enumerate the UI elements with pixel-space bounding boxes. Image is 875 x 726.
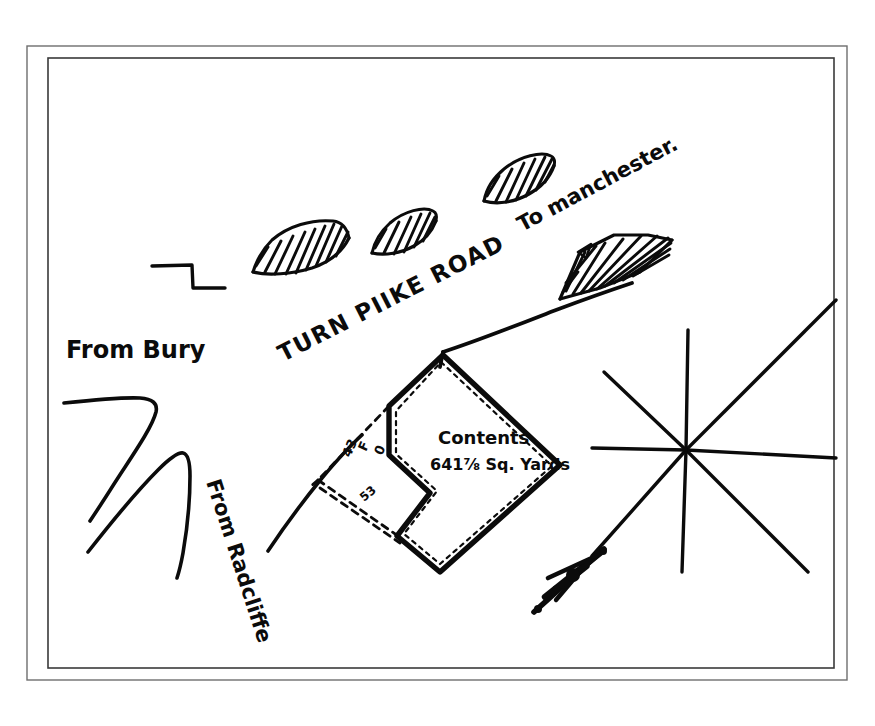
compass-ray-e bbox=[686, 450, 836, 458]
map-drawing-canvas: From Bury From Radcliffe TURN PIIKE ROAD… bbox=[0, 0, 875, 726]
hatched-block-east bbox=[484, 154, 555, 203]
hatched-block-middle bbox=[372, 209, 437, 254]
label-contents-heading: Contents bbox=[438, 427, 529, 448]
label-plot-dim-b: F bbox=[355, 439, 372, 453]
scanned-sheet: From Bury From Radcliffe TURN PIIKE ROAD… bbox=[0, 0, 875, 726]
compass-ray-se bbox=[686, 450, 808, 572]
compass-ray-nw bbox=[604, 372, 686, 450]
compass-ray-sw bbox=[592, 450, 686, 556]
hatched-block-west bbox=[253, 221, 349, 274]
label-plot-dim-c: 0 bbox=[371, 443, 388, 457]
turnpike-road-line bbox=[440, 283, 632, 367]
compass-ray-s bbox=[682, 450, 686, 572]
label-plot-dim-d: 53 bbox=[357, 483, 379, 504]
compass-rose bbox=[592, 300, 836, 572]
label-from-bury: From Bury bbox=[66, 336, 206, 364]
road-step-mark bbox=[152, 265, 225, 288]
label-turnpike-road: TURN PIIKE ROAD bbox=[273, 229, 508, 366]
page-root: From Bury From Radcliffe TURN PIIKE ROAD… bbox=[0, 0, 875, 726]
compass-ray-n bbox=[686, 330, 688, 450]
ink-scribble-mark bbox=[534, 547, 607, 613]
label-from-radcliffe: From Radcliffe bbox=[201, 476, 276, 646]
compass-ray-w bbox=[592, 448, 686, 450]
compass-ray-ne bbox=[686, 300, 836, 450]
label-contents-value: 641⅞ Sq. Yards bbox=[430, 455, 570, 474]
